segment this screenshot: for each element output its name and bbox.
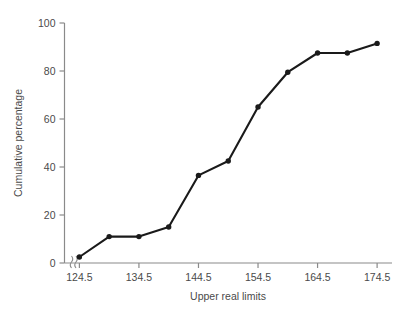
x-tick-label: 134.5 [126,271,152,283]
chart-canvas: 020406080100 124.5134.5144.5154.5164.517… [0,0,413,317]
x-tick-label: 154.5 [245,271,271,283]
x-tick-label: 144.5 [185,271,211,283]
data-point [255,104,260,109]
chart-background [0,0,413,317]
data-point [285,70,290,75]
data-point [77,254,82,259]
data-point [315,50,320,55]
data-point [106,234,111,239]
data-point [345,50,350,55]
y-tick-label: 80 [44,65,56,77]
data-point [374,41,379,46]
y-tick-label: 60 [44,113,56,125]
x-tick-label: 124.5 [66,271,92,283]
data-point [166,224,171,229]
data-point [196,173,201,178]
y-tick-label: 0 [50,257,56,269]
data-point [136,234,141,239]
x-axis-title: Upper real limits [190,290,266,302]
y-axis-title: Cumulative percentage [12,89,24,197]
x-tick-label: 174.5 [364,271,390,283]
x-tick-label: 164.5 [304,271,330,283]
y-tick-label: 100 [38,17,56,29]
data-point [226,158,231,163]
cumulative-percentage-chart: 020406080100 124.5134.5144.5154.5164.517… [0,0,413,317]
y-tick-label: 20 [44,209,56,221]
y-tick-label: 40 [44,161,56,173]
